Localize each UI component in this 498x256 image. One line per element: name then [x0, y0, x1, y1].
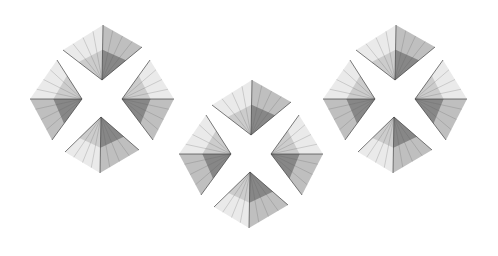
cluster-middle	[179, 80, 323, 228]
right-petal	[415, 60, 467, 140]
right-petal	[122, 60, 174, 140]
bottom-petal	[65, 117, 139, 173]
top-petal	[63, 25, 142, 80]
top-petal	[212, 80, 291, 135]
bottom-petal	[358, 117, 432, 173]
right-petal	[271, 115, 323, 195]
left-petal	[179, 115, 231, 195]
bottom-petal	[214, 172, 288, 228]
cluster-right	[323, 25, 467, 173]
left-petal	[323, 60, 375, 140]
cluster-left	[30, 25, 174, 173]
top-petal	[356, 25, 435, 80]
origami-petals-scene	[0, 0, 498, 256]
left-petal	[30, 60, 82, 140]
